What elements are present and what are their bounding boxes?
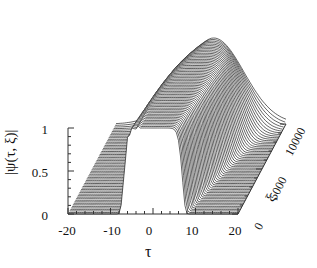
- x-tick--10: -10: [97, 224, 127, 237]
- y-tick-1: 1: [18, 123, 48, 136]
- y-tick-0.5: 0.5: [18, 166, 48, 179]
- x-tick-0: 0: [134, 224, 164, 237]
- x-tick--20: -20: [52, 224, 82, 237]
- x-tick-20: 20: [220, 224, 250, 237]
- y-axis-label: |ψ(τ, ξ)|: [2, 129, 19, 175]
- x-tick-10: 10: [177, 224, 207, 237]
- x-axis-label: τ: [145, 243, 151, 261]
- y-tick-0: 0: [18, 209, 48, 222]
